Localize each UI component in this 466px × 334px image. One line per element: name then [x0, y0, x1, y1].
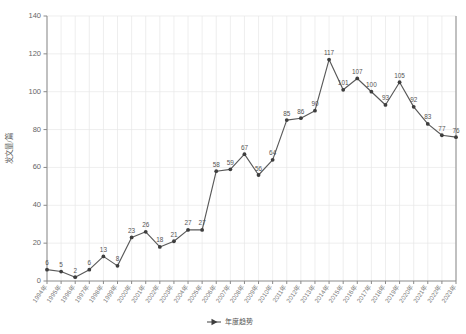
data-point-marker[interactable]	[102, 254, 106, 258]
data-point-marker[interactable]	[87, 268, 91, 272]
data-point-label: 90	[311, 100, 319, 107]
data-point-label: 58	[213, 161, 221, 168]
y-axis-tick-label: 60	[33, 162, 41, 171]
data-point-marker[interactable]	[200, 228, 204, 232]
data-point-label: 85	[283, 110, 291, 117]
data-point-label: 100	[366, 81, 377, 88]
x-axis-tick-label: 2023年	[440, 284, 458, 305]
data-point-marker[interactable]	[214, 169, 218, 173]
chart-container: 0204060801001201401994年1995年1996年1997年19…	[0, 0, 466, 334]
data-point-marker[interactable]	[454, 135, 458, 139]
data-point-marker[interactable]	[73, 275, 77, 279]
data-point-marker[interactable]	[355, 77, 359, 81]
data-point-label: 86	[297, 108, 305, 115]
data-point-label: 92	[410, 96, 418, 103]
data-point-label: 6	[45, 259, 49, 266]
y-axis-tick-label: 40	[33, 200, 41, 209]
data-point-label: 21	[170, 231, 178, 238]
data-point-marker[interactable]	[130, 236, 134, 240]
y-axis-tick-label: 140	[28, 11, 41, 20]
legend-label-annual-trend: 年度趋势	[225, 317, 253, 326]
y-axis-title: 发文量/篇	[4, 132, 14, 163]
data-point-label: 105	[394, 72, 405, 79]
data-point-label: 83	[424, 113, 432, 120]
data-point-marker[interactable]	[172, 239, 176, 243]
data-point-marker[interactable]	[228, 167, 232, 171]
data-point-marker[interactable]	[341, 88, 345, 92]
data-point-marker[interactable]	[384, 103, 388, 107]
data-point-label: 77	[438, 125, 446, 132]
data-point-marker[interactable]	[144, 230, 148, 234]
data-point-marker[interactable]	[285, 118, 289, 122]
y-axis-tick-label: 100	[28, 87, 41, 96]
data-point-marker[interactable]	[186, 228, 190, 232]
line-chart: 0204060801001201401994年1995年1996年1997年19…	[0, 0, 466, 334]
data-point-marker[interactable]	[440, 133, 444, 137]
data-point-label: 107	[352, 68, 363, 75]
y-axis-tick-label: 0	[37, 276, 41, 285]
data-point-label: 76	[452, 127, 460, 134]
data-point-label: 27	[184, 219, 192, 226]
data-point-marker[interactable]	[243, 152, 247, 156]
data-point-label: 59	[227, 159, 235, 166]
data-point-label: 101	[338, 79, 349, 86]
data-point-label: 67	[241, 144, 249, 151]
data-point-label: 6	[88, 259, 92, 266]
series-line-annual-trend	[47, 60, 456, 278]
data-point-label: 23	[128, 227, 136, 234]
data-point-marker[interactable]	[257, 173, 261, 177]
x-axis-tick-label: 2010年	[256, 284, 274, 305]
data-point-marker[interactable]	[116, 264, 120, 268]
data-point-marker[interactable]	[327, 58, 331, 62]
data-point-marker[interactable]	[45, 268, 49, 272]
legend-marker-icon	[212, 319, 218, 325]
data-point-marker[interactable]	[369, 90, 373, 94]
data-point-marker[interactable]	[59, 270, 63, 274]
y-axis-tick-label: 20	[33, 238, 41, 247]
data-point-label: 27	[199, 219, 207, 226]
y-axis-tick-label: 120	[28, 49, 41, 58]
data-point-marker[interactable]	[426, 122, 430, 126]
data-point-label: 13	[100, 246, 108, 253]
data-point-label: 18	[156, 236, 164, 243]
data-point-label: 26	[142, 221, 150, 228]
data-point-marker[interactable]	[299, 116, 303, 120]
data-point-label: 56	[255, 165, 263, 172]
data-point-marker[interactable]	[158, 245, 162, 249]
data-point-label: 93	[382, 94, 390, 101]
data-point-label: 117	[324, 49, 335, 56]
data-point-marker[interactable]	[398, 80, 402, 84]
y-axis-tick-label: 80	[33, 125, 41, 134]
data-point-marker[interactable]	[412, 105, 416, 109]
data-point-label: 5	[59, 261, 63, 268]
data-point-label: 8	[116, 255, 120, 262]
data-point-label: 64	[269, 149, 277, 156]
data-point-marker[interactable]	[313, 109, 317, 113]
data-point-marker[interactable]	[271, 158, 275, 162]
data-point-label: 2	[73, 267, 77, 274]
